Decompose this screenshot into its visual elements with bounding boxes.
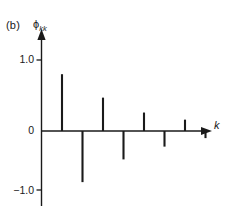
y-tick-label-negative: −1.0 — [0, 184, 34, 196]
y-tick-label-zero: 0 — [4, 124, 34, 136]
plot-area — [0, 0, 228, 223]
spikes-group — [62, 74, 206, 182]
pacf-figure-panel: (b) ϕkk k 1.0 0 −1.0 — [0, 0, 228, 223]
y-axis-label-subscript: kk — [39, 24, 47, 33]
y-tick-label-positive: 1.0 — [4, 53, 34, 65]
x-axis-label: k — [214, 119, 220, 131]
panel-label: (b) — [6, 19, 20, 31]
y-axis-label: ϕkk — [33, 18, 47, 33]
